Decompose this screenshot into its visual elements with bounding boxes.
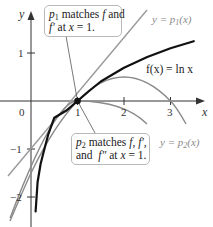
- y-axis-arrow-icon: [28, 11, 35, 20]
- y-tick-label-neg1: −1: [10, 143, 22, 155]
- x-axis-arrow-icon: [196, 98, 205, 105]
- callout-p1-leader: [66, 36, 78, 101]
- x-axis-label: x: [201, 105, 208, 119]
- p1-curve-label: y = p1(x): [151, 13, 192, 27]
- callout-p2: p2 matches f, f′, and f″ at x = 1.: [71, 133, 150, 165]
- y-axis-label: y: [18, 7, 25, 21]
- x-tick-label-3: 3: [167, 106, 173, 118]
- f-curve-label: f(x) = ln x: [146, 63, 193, 76]
- y-tick-label-neg2: −2: [10, 191, 22, 203]
- callout-p1-line1: p1 matches f and: [49, 8, 117, 21]
- callout-p1-line2: f′ at x = 1.: [49, 21, 117, 34]
- callout-p2-line1: p2 matches f, f′,: [76, 136, 145, 149]
- callout-p2-line2: and f″ at x = 1.: [76, 149, 145, 162]
- p2-curve-label: y = p2(x): [159, 136, 200, 150]
- x-tick-label-2: 2: [121, 106, 127, 118]
- callout-p1: p1 matches f and f′ at x = 1.: [44, 5, 122, 37]
- origin-label: 0: [19, 106, 25, 118]
- y-axis: [28, 11, 35, 227]
- tangent-point-marker: [74, 98, 81, 105]
- y-tick-label-1: 1: [18, 47, 24, 59]
- taylor-polynomial-diagram: y x 0 1 2 3 1 −1 −2 y = p1(x) f(x) = ln …: [0, 0, 213, 227]
- x-tick-label-1: 1: [75, 106, 81, 118]
